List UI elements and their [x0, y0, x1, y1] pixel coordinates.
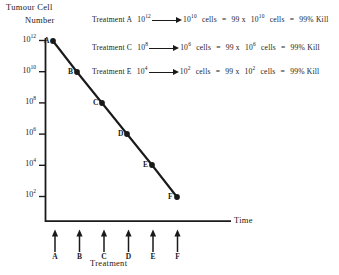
tumour-cell-log-kill-figure: Tumour Cell Number Time Treatment [0, 0, 339, 275]
annotation-e-arrow-icon [149, 69, 179, 76]
treatment-arrow-e [150, 230, 156, 253]
data-point-label-d: D [118, 129, 123, 138]
data-point-f [174, 194, 180, 200]
treatment-arrow-c [101, 230, 107, 253]
annotation-e-treatment: Treatment E [92, 67, 132, 76]
data-point-d [124, 131, 130, 137]
annotation-a-arrow-icon [152, 17, 182, 24]
y-tick-label-0: 1012 [12, 35, 36, 44]
treatment-arrow-d [125, 230, 131, 253]
y-tick-label-2: 108 [12, 97, 36, 106]
annotation-c-treatment: Treatment C [92, 43, 132, 52]
data-point-e [149, 162, 155, 168]
treatment-arrow-label-f: F [173, 252, 183, 261]
y-tick-label-3: 106 [12, 128, 36, 137]
treatment-arrow-b [76, 230, 82, 253]
plot-canvas [0, 0, 339, 275]
data-point-a [50, 38, 56, 44]
data-line-series [53, 41, 177, 197]
data-point-c [99, 100, 105, 106]
treatment-arrow-label-c: C [99, 252, 109, 261]
y-tick-label-5: 102 [12, 190, 36, 199]
data-point-label-e: E [143, 160, 148, 169]
annotation-row-treatment-c: Treatment C 108106 cells = 99 x 106 cell… [92, 43, 320, 52]
treatment-arrow-label-a: A [50, 252, 60, 261]
data-point-label-b: B [68, 67, 73, 76]
annotation-row-treatment-e: Treatment E 104102 cells = 99 x 102 cell… [92, 67, 319, 76]
treatment-arrow-a [52, 230, 58, 253]
treatment-arrow-f [174, 230, 180, 253]
annotation-row-treatment-a: Treatment A 10121010 cells = 99 x 1010 c… [92, 15, 329, 24]
treatment-arrows [52, 230, 181, 253]
treatment-arrow-label-e: E [148, 252, 158, 261]
data-point-label-a: A [44, 36, 49, 45]
annotation-a-treatment: Treatment A [92, 15, 132, 24]
y-tick-label-4: 104 [12, 159, 36, 168]
treatment-arrow-label-b: B [75, 252, 85, 261]
annotation-c-arrow-icon [149, 45, 179, 52]
data-point-label-c: C [93, 98, 98, 107]
y-tick-label-1: 1010 [12, 66, 36, 75]
data-point-label-f: F [168, 192, 173, 201]
treatment-arrow-label-d: D [124, 252, 134, 261]
data-point-b [74, 69, 80, 75]
